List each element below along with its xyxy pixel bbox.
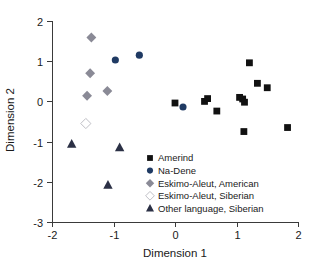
- data-point-2-3: [102, 86, 112, 96]
- data-point-0-11: [284, 124, 291, 131]
- data-point-2-1: [85, 68, 95, 78]
- data-point-0-3: [213, 108, 220, 115]
- data-point-0-9: [254, 80, 261, 87]
- series-3: [81, 118, 91, 128]
- data-point-0-10: [264, 84, 271, 91]
- data-point-1-0: [112, 56, 119, 63]
- chart-legend: AmerindNa-DeneEskimo-Aleut, AmericanEski…: [146, 152, 264, 213]
- legend-marker-0: [147, 155, 153, 161]
- data-point-2-0: [86, 33, 96, 43]
- legend-marker-1: [147, 168, 153, 174]
- x-tick-label-4: 2: [295, 229, 301, 241]
- legend-label-3: Eskimo-Aleut, Siberian: [158, 190, 254, 201]
- data-point-0-0: [172, 100, 179, 107]
- legend-marker-3: [146, 191, 155, 200]
- x-tick-label-3: 1: [234, 229, 240, 241]
- y-tick-label-2: -1: [33, 137, 43, 149]
- y-tick-label-4: 1: [37, 56, 43, 68]
- series-0: [172, 59, 291, 135]
- y-tick-label-5: 2: [37, 16, 43, 28]
- data-point-4-2: [103, 180, 112, 189]
- legend-label-4: Other language, Siberian: [158, 203, 264, 214]
- data-point-0-7: [240, 128, 247, 135]
- x-axis-title: Dimension 1: [143, 247, 207, 259]
- plot-canvas: -2-1012-3-2-1012 AmerindNa-DeneEskimo-Al…: [0, 0, 319, 264]
- legend-item-0[interactable]: Amerind: [147, 152, 193, 163]
- y-tick-label-3: 0: [37, 96, 43, 108]
- data-point-1-2: [179, 103, 186, 110]
- legend-item-4[interactable]: Other language, Siberian: [146, 203, 264, 214]
- data-point-0-2: [204, 95, 211, 102]
- legend-item-1[interactable]: Na-Dene: [147, 165, 196, 176]
- data-point-4-1: [115, 143, 124, 152]
- y-tick-label-1: -2: [33, 177, 43, 189]
- data-point-0-6: [241, 99, 248, 106]
- legend-marker-4: [146, 204, 154, 211]
- data-point-4-0: [67, 139, 76, 148]
- x-tick-label-1: -1: [110, 229, 120, 241]
- legend-label-1: Na-Dene: [158, 165, 196, 176]
- legend-label-2: Eskimo-Aleut, American: [158, 178, 259, 189]
- data-point-3-0: [81, 118, 91, 128]
- y-tick-label-0: -3: [33, 217, 43, 229]
- x-tick-label-0: -2: [48, 229, 58, 241]
- legend-label-0: Amerind: [158, 152, 193, 163]
- legend-marker-2: [146, 179, 154, 187]
- data-point-0-8: [246, 59, 253, 66]
- legend-item-3[interactable]: Eskimo-Aleut, Siberian: [146, 190, 254, 201]
- legend-item-2[interactable]: Eskimo-Aleut, American: [146, 178, 259, 189]
- data-point-2-2: [82, 91, 92, 101]
- series-2: [82, 33, 112, 101]
- scatter-plot-figure: -2-1012-3-2-1012 AmerindNa-DeneEskimo-Al…: [0, 0, 319, 264]
- series-4: [67, 139, 124, 189]
- x-tick-label-2: 0: [172, 229, 178, 241]
- data-point-1-1: [136, 52, 143, 59]
- y-axis-title: Dimension 2: [4, 88, 16, 152]
